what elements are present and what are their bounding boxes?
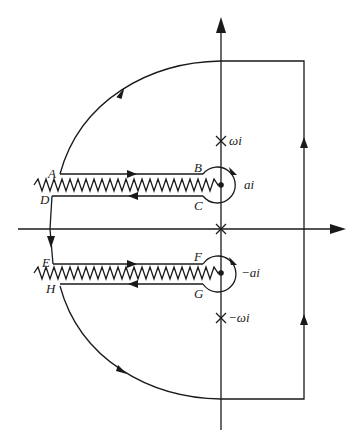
right-arrow-icon (127, 260, 137, 268)
upper-arc (60, 61, 221, 174)
label-neg-ai: −ai (241, 265, 260, 280)
label-e: E (41, 255, 50, 270)
contour-right-segment (221, 61, 308, 399)
left-arrow-icon (128, 280, 138, 288)
down-arrow-icon (47, 236, 55, 248)
label-f: F (193, 249, 203, 264)
up-arrow-icon (300, 137, 308, 148)
arc-arrow-icon (116, 365, 127, 374)
lower-arc (60, 286, 221, 399)
branch-cut-lower (34, 267, 221, 279)
real-axis (18, 224, 346, 234)
imaginary-axis (216, 17, 226, 430)
up-arrow-icon (300, 314, 308, 325)
circle-arrow-icon (229, 257, 237, 265)
label-c: C (194, 198, 203, 213)
label-g: G (194, 286, 204, 301)
branch-cut-upper (34, 179, 221, 191)
right-arrow-icon (127, 170, 137, 178)
imaginary-axis-arrow-icon (216, 17, 226, 33)
label-h: H (45, 281, 56, 296)
label-a: A (47, 166, 56, 181)
label-ai: ai (244, 177, 255, 192)
label-b: B (194, 160, 202, 175)
contour-diagram: A B C D E F G H ωi ai −ai −ωi (0, 0, 362, 444)
label-d: D (39, 192, 50, 207)
real-axis-arrow-icon (330, 224, 346, 234)
circle-arrow-icon (229, 167, 237, 175)
label-neg-omega-i: −ωi (228, 310, 250, 325)
label-omega-i: ωi (229, 133, 242, 148)
left-arrow-icon (128, 192, 138, 200)
